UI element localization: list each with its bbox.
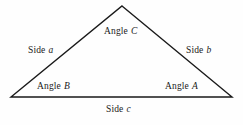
label-side-b-word: Side bbox=[186, 45, 204, 55]
label-side-a-symbol: a bbox=[48, 45, 53, 55]
label-side-b: Side b bbox=[186, 45, 211, 56]
label-angle-b-word: Angle bbox=[37, 81, 61, 91]
label-angle-a-word: Angle bbox=[165, 81, 189, 91]
label-angle-c: Angle C bbox=[104, 26, 138, 37]
label-angle-b-symbol: B bbox=[64, 81, 70, 91]
label-side-c-word: Side bbox=[106, 104, 124, 114]
label-side-c-symbol: c bbox=[126, 104, 131, 114]
label-side-c: Side c bbox=[106, 104, 131, 115]
triangle-figure: Angle C Side a Side b Angle B Angle A Si… bbox=[0, 0, 243, 125]
label-side-b-symbol: b bbox=[206, 45, 211, 55]
label-side-a: Side a bbox=[28, 45, 53, 56]
label-angle-b: Angle B bbox=[37, 81, 70, 92]
label-angle-a-symbol: A bbox=[192, 81, 198, 91]
label-side-a-word: Side bbox=[28, 45, 46, 55]
label-angle-a: Angle A bbox=[165, 81, 198, 92]
label-angle-c-symbol: C bbox=[131, 26, 138, 36]
label-angle-c-word: Angle bbox=[104, 26, 128, 36]
